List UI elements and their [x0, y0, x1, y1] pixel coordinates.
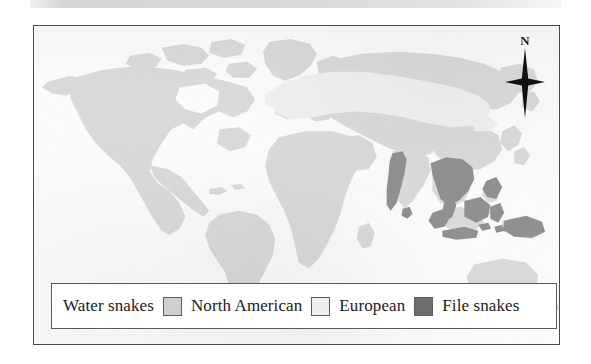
- legend-swatch-file-snakes: [414, 297, 433, 316]
- legend-label-european: European: [339, 296, 405, 316]
- compass-rose: N: [505, 34, 545, 119]
- map-frame: N Water snakes North American European F…: [33, 25, 560, 345]
- legend-label-north-american: North American: [191, 296, 302, 316]
- legend-title: Water snakes: [63, 296, 154, 316]
- legend-label-file-snakes: File snakes: [442, 296, 519, 316]
- compass-north-label: N: [505, 34, 545, 47]
- compass-star-icon: [505, 48, 545, 118]
- legend-swatch-north-american: [163, 297, 182, 316]
- map-legend: Water snakes North American European Fil…: [51, 283, 557, 329]
- scan-artifact-band: [30, 0, 561, 8]
- legend-swatch-european: [311, 297, 330, 316]
